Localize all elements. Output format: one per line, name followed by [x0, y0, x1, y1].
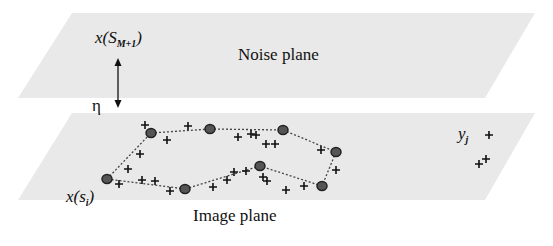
contour-node-icon [146, 129, 156, 138]
outlier-node-close: ) [136, 28, 142, 47]
contour-node-icon [102, 175, 112, 184]
feature-base: y [458, 124, 466, 143]
feature-subscript: j [466, 134, 469, 145]
outlier-node-base: x(S [95, 28, 117, 47]
contour-node-icon [180, 185, 190, 194]
contour-node-icon [317, 182, 327, 191]
image-plane-label: Image plane [193, 206, 277, 226]
eta-label: η [92, 96, 101, 116]
contour-node-label: x(si) [66, 187, 94, 208]
outlier-node-label: x(SM+1) [95, 28, 142, 49]
arrowhead-down-icon [115, 100, 122, 108]
outlier-node-subscript: M+1 [117, 38, 137, 49]
noise-plane-label: Noise plane [238, 45, 319, 65]
feature-point-label: yj [458, 124, 468, 145]
contour-node-icon [331, 148, 341, 157]
contour-node-icon [205, 125, 215, 134]
contour-node-icon [255, 162, 265, 171]
contour-node-close: ) [89, 187, 95, 206]
contour-node-base: x(s [66, 187, 86, 206]
contour-node-icon [278, 126, 288, 135]
